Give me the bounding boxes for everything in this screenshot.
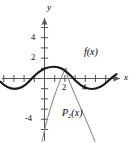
curve-label-p2-tail: (x) — [71, 107, 82, 118]
x-tick-label-2: 2 — [62, 82, 66, 92]
curve-label-p2-subscript: 2 — [68, 112, 71, 119]
y-tick-label-4: 4 — [31, 32, 35, 42]
x-tick-label-4: 4 — [82, 82, 86, 92]
curve-label-p2: P2(x) — [62, 102, 82, 120]
y-tick-label-2: 2 — [31, 52, 35, 62]
y-axis-group — [41, 18, 48, 141]
taylor-approximation-figure: y x 4 2 -4 2 4 f(x) P2(x) — [0, 0, 136, 143]
y-axis-label: y — [47, 2, 51, 12]
graph-canvas — [0, 0, 136, 143]
y-axis-arrow-icon — [42, 18, 48, 25]
x-axis-label: x — [124, 72, 128, 82]
curve-label-f: f(x) — [84, 46, 98, 57]
y-tick-label-negative-4: -4 — [25, 113, 32, 123]
